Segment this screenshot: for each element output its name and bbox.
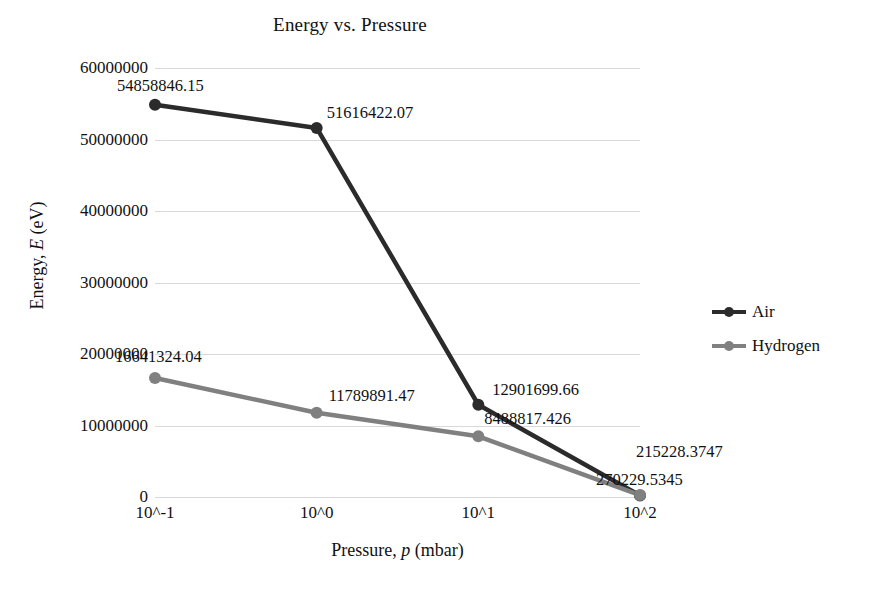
legend-marker-icon <box>712 305 746 319</box>
page-title: Energy vs. Pressure <box>0 14 700 36</box>
y-tick-label: 40000000 <box>8 202 148 219</box>
x-axis-ticks: 10^-110^010^110^2 <box>155 503 640 529</box>
legend-item-air[interactable]: Air <box>712 295 877 329</box>
legend-label: Hydrogen <box>752 336 820 356</box>
data-label: 270229.5345 <box>596 471 683 488</box>
plot-area <box>155 68 640 497</box>
legend: AirHydrogen <box>712 295 877 363</box>
gridline <box>155 140 640 141</box>
data-label: 54858846.15 <box>117 77 204 94</box>
gridline <box>155 68 640 69</box>
legend-dot <box>724 307 734 317</box>
gridline <box>155 211 640 212</box>
x-axis-title-prefix: Pressure, <box>331 540 401 560</box>
chart-page: Energy vs. Pressure Energy, E (eV) 60000… <box>0 0 888 601</box>
data-label: 16641324.04 <box>115 348 202 365</box>
legend-dot <box>724 341 734 351</box>
legend-marker-icon <box>712 339 746 353</box>
x-tick-label: 10^2 <box>580 503 700 523</box>
gridline <box>155 283 640 284</box>
y-tick-label: 30000000 <box>8 274 148 291</box>
y-tick-label: 10000000 <box>8 417 148 434</box>
data-label: 215228.3747 <box>636 443 723 460</box>
data-label: 8488817.426 <box>484 410 571 427</box>
data-label: 12901699.66 <box>492 381 579 398</box>
data-label: 51616422.07 <box>327 104 414 121</box>
y-tick-label: 50000000 <box>8 131 148 148</box>
y-tick-label: 60000000 <box>8 59 148 76</box>
x-axis-title-symbol: p <box>401 540 410 560</box>
x-axis-title-suffix: (mbar) <box>410 540 463 560</box>
x-tick-label: 10^1 <box>418 503 538 523</box>
legend-item-hydrogen[interactable]: Hydrogen <box>712 329 877 363</box>
x-tick-label: 10^0 <box>257 503 377 523</box>
data-label: 11789891.47 <box>329 387 415 404</box>
x-axis-title: Pressure, p (mbar) <box>155 540 640 561</box>
legend-label: Air <box>752 302 775 322</box>
x-tick-label: 10^-1 <box>95 503 215 523</box>
gridline <box>155 354 640 355</box>
gridline <box>155 497 640 498</box>
y-axis-ticks: 6000000050000000400000003000000020000000… <box>5 68 148 497</box>
